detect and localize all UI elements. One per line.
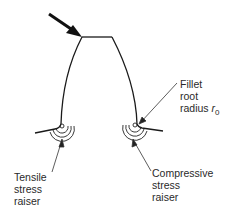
fillet-root-radius-label: Fillet root radius r0 bbox=[180, 78, 219, 119]
label-line: root bbox=[180, 90, 219, 102]
right-fillet-stress-contours bbox=[123, 123, 147, 140]
label-line: radius r0 bbox=[180, 102, 219, 119]
label-line: Fillet bbox=[180, 78, 219, 90]
label-line: raiser bbox=[14, 195, 47, 207]
load-arrow bbox=[49, 14, 82, 37]
gear-tooth-diagram: Fillet root radius r0 Tensile stress rai… bbox=[0, 0, 231, 219]
leader-lines bbox=[52, 83, 177, 172]
radius-subscript: 0 bbox=[215, 108, 219, 117]
label-line: Compressive bbox=[152, 167, 213, 179]
compressive-stress-raiser-label: Compressive stress raiser bbox=[152, 167, 213, 203]
tensile-stress-raiser-label: Tensile stress raiser bbox=[14, 171, 47, 207]
label-line: stress bbox=[14, 183, 47, 195]
label-line: stress bbox=[152, 179, 213, 191]
label-line: Tensile bbox=[14, 171, 47, 183]
label-line: raiser bbox=[152, 191, 213, 203]
